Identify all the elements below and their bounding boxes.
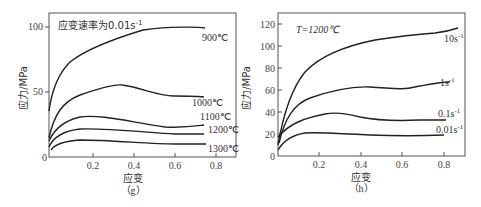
xtick-label: 0.6 (396, 159, 409, 170)
ytick-label: 100 (260, 41, 275, 52)
label-base: 1s (440, 77, 449, 88)
ytick-label: 40 (265, 107, 275, 118)
chart-title-g: 应变速率为0.01s-1 (58, 19, 142, 31)
xtick-label: 0.2 (87, 160, 100, 171)
curve-label-0.01s: 0.01s-1 (436, 123, 464, 135)
xtick-label: 0.2 (313, 159, 326, 170)
curve-label-1100C: 1100℃ (200, 111, 231, 122)
label-sup: -1 (449, 76, 455, 84)
xlabel-h: 应变 (351, 171, 371, 183)
ytick-label: 120 (260, 19, 275, 30)
curve-1100C (49, 116, 204, 141)
xtick-label: 0.6 (169, 160, 182, 171)
xtick-label: 0.4 (355, 159, 368, 170)
xtick-label: 0.8 (210, 160, 223, 171)
xtick-label: 0.8 (438, 159, 451, 170)
xlabel-g: 应变 (123, 172, 143, 184)
label-base: 0.01s (436, 124, 458, 135)
ytick-label: 100 (28, 21, 43, 32)
curve-label-0.1s: 0.1s-1 (438, 107, 461, 119)
curve-label-1200C: 1200℃ (208, 124, 239, 135)
label-sup: -1 (454, 107, 460, 115)
chart-title-h: T=1200℃ (296, 24, 341, 35)
ytick-label: 50 (33, 86, 43, 97)
caption-g: （g） (121, 185, 146, 196)
label-base: 0.1s (438, 108, 455, 119)
ytick-label: 20 (265, 129, 275, 140)
chart-h: 0 20 40 60 80 100 120 0.2 0.4 0.6 0.8 10… (240, 13, 465, 194)
title-text: 应变速率为0.01s (58, 19, 135, 31)
label-base: 10s (444, 33, 458, 44)
ylabel-h: 应力/MPa (240, 66, 252, 110)
curve-0.01s (278, 133, 444, 150)
title-superscript: -1 (135, 19, 142, 27)
curve-label-1s: 1s-1 (440, 76, 455, 88)
ylabel-g: 应力/MPa (17, 66, 29, 110)
curve-label-900C: 900℃ (202, 32, 228, 43)
curve-label-1300C: 1300℃ (208, 143, 239, 154)
curve-label-1000C: 1000℃ (192, 97, 223, 108)
ytick-label: 0 (270, 151, 275, 162)
curve-label-10s: 10s-1 (444, 32, 464, 44)
curve-1s (279, 82, 450, 143)
label-sup: -1 (458, 32, 464, 40)
ytick-label: 60 (265, 85, 275, 96)
caption-h: （h） (349, 183, 374, 194)
xtick-label: 0.4 (128, 160, 141, 171)
chart-g: 100 50 0 0.2 0.4 0.6 0.8 900℃ 1000℃ 1100… (17, 13, 239, 196)
label-sup: -1 (457, 123, 463, 131)
ytick-label: 80 (265, 63, 275, 74)
ytick-label: 0 (42, 152, 47, 163)
figure: 100 50 0 0.2 0.4 0.6 0.8 900℃ 1000℃ 1100… (0, 0, 481, 207)
curve-1300C (51, 140, 206, 150)
